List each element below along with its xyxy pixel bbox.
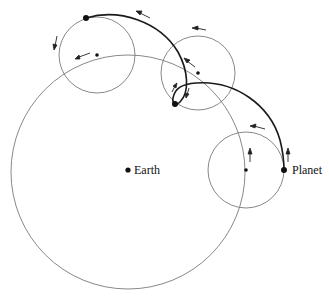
- planet-dot: [83, 15, 89, 21]
- earth-dot: [125, 167, 130, 172]
- planet-dot: [281, 167, 287, 173]
- planet-label: Planet: [292, 163, 323, 177]
- arrow-icon: [184, 58, 195, 67]
- arrow-icon: [53, 36, 57, 50]
- earth-label: Earth: [134, 163, 160, 177]
- arrow-icon: [192, 26, 206, 30]
- arrow-icon: [75, 53, 90, 59]
- epicycle-center-dot: [95, 53, 99, 57]
- arrow-icon: [286, 148, 290, 162]
- arrow-icon: [250, 124, 265, 129]
- epicycle-diagram: Earth Planet: [0, 0, 329, 296]
- arrow-icon: [136, 11, 150, 18]
- epicycle-center-dot: [244, 168, 248, 172]
- epicycle-center-dot: [196, 71, 200, 75]
- arrow-icon: [248, 148, 252, 162]
- planet-dot: [172, 101, 178, 107]
